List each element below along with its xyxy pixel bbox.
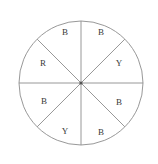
sector-label-bottom-right: B xyxy=(94,128,108,137)
center-hub xyxy=(79,81,82,84)
spinner-figure: B B Y B B Y B R xyxy=(0,0,158,164)
sector-label-top-left: B xyxy=(58,28,72,37)
sector-label-top-right: B xyxy=(94,28,108,37)
spinner-wheel-svg xyxy=(0,0,158,164)
sector-label-left-upper: R xyxy=(36,59,50,68)
sector-label-right-lower: B xyxy=(112,98,126,107)
sector-label-right-upper: Y xyxy=(112,59,126,68)
sector-label-bottom-left: Y xyxy=(58,127,72,136)
sector-label-left-lower: B xyxy=(37,97,51,106)
